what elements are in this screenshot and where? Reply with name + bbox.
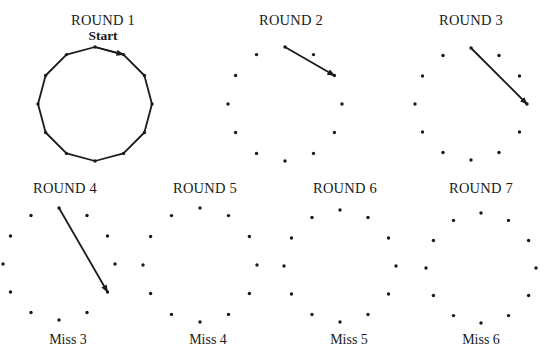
point-dot bbox=[387, 236, 390, 239]
point-dot bbox=[149, 292, 152, 295]
round-5-title: ROUND 5 bbox=[173, 181, 237, 196]
point-dot bbox=[312, 152, 315, 155]
point-dot bbox=[441, 54, 444, 57]
point-dot bbox=[106, 234, 109, 237]
point-dot bbox=[36, 102, 39, 105]
point-dot bbox=[479, 211, 482, 214]
point-dot bbox=[283, 159, 286, 162]
point-dot bbox=[527, 239, 530, 242]
point-dot bbox=[198, 320, 201, 323]
point-dot bbox=[255, 152, 258, 155]
point-dot bbox=[248, 235, 251, 238]
point-dot bbox=[290, 292, 293, 295]
point-dot bbox=[338, 320, 341, 323]
round-7-diagram bbox=[424, 211, 537, 324]
point-dot bbox=[421, 74, 424, 77]
round-6-diagram bbox=[282, 208, 397, 323]
point-dot bbox=[150, 102, 153, 105]
point-dot bbox=[57, 318, 60, 321]
point-dot bbox=[432, 239, 435, 242]
point-dot bbox=[340, 102, 343, 105]
round-2-diagram bbox=[226, 45, 343, 162]
point-dot bbox=[282, 264, 285, 267]
round-7-miss-caption: Miss 6 bbox=[462, 333, 500, 347]
point-dot bbox=[113, 262, 116, 265]
point-dot bbox=[29, 214, 32, 217]
point-dot bbox=[432, 294, 435, 297]
point-dot bbox=[424, 266, 427, 269]
point-dot bbox=[122, 152, 125, 155]
round-6-title: ROUND 6 bbox=[313, 181, 377, 196]
point-dot bbox=[394, 264, 397, 267]
round-4-miss-caption: Miss 3 bbox=[49, 333, 87, 347]
point-dot bbox=[234, 131, 237, 134]
point-dot bbox=[333, 131, 336, 134]
point-dot bbox=[85, 214, 88, 217]
point-dot bbox=[527, 294, 530, 297]
point-dot bbox=[452, 314, 455, 317]
point-dot bbox=[452, 219, 455, 222]
point-dot bbox=[170, 313, 173, 316]
skip-arrow bbox=[59, 208, 108, 292]
point-dot bbox=[518, 130, 521, 133]
round-4-title: ROUND 4 bbox=[33, 181, 97, 196]
round-1-title: ROUND 1 bbox=[71, 13, 135, 28]
point-dot bbox=[518, 74, 521, 77]
round-6-miss-caption: Miss 5 bbox=[330, 333, 368, 347]
point-dot bbox=[366, 216, 369, 219]
point-dot bbox=[1, 262, 4, 265]
skip-arrow bbox=[285, 47, 334, 76]
round-5-miss-caption: Miss 4 bbox=[189, 333, 227, 347]
point-dot bbox=[497, 151, 500, 154]
point-dot bbox=[141, 263, 144, 266]
round-4-diagram bbox=[1, 206, 116, 321]
point-dot bbox=[338, 208, 341, 211]
point-dot bbox=[44, 131, 47, 134]
point-dot bbox=[227, 214, 230, 217]
point-dot bbox=[507, 314, 510, 317]
round-3-title: ROUND 3 bbox=[439, 13, 503, 28]
round-1-diagram bbox=[36, 45, 153, 162]
point-dot bbox=[479, 321, 482, 324]
point-dot bbox=[441, 151, 444, 154]
point-dot bbox=[507, 219, 510, 222]
point-dot bbox=[9, 234, 12, 237]
point-dot bbox=[310, 313, 313, 316]
point-dot bbox=[255, 263, 258, 266]
point-dot bbox=[290, 236, 293, 239]
point-dot bbox=[143, 74, 146, 77]
point-dot bbox=[421, 130, 424, 133]
point-dot bbox=[170, 214, 173, 217]
point-dot bbox=[9, 290, 12, 293]
point-dot bbox=[29, 311, 32, 314]
point-dot bbox=[469, 158, 472, 161]
point-dot bbox=[226, 102, 229, 105]
point-dot bbox=[44, 74, 47, 77]
point-dot bbox=[65, 53, 68, 56]
point-dot bbox=[497, 54, 500, 57]
point-dot bbox=[85, 311, 88, 314]
round-2-title: ROUND 2 bbox=[259, 13, 323, 28]
twelve-gon-path bbox=[38, 47, 152, 161]
point-dot bbox=[366, 313, 369, 316]
point-dot bbox=[65, 152, 68, 155]
round-7-title: ROUND 7 bbox=[449, 181, 513, 196]
point-dot bbox=[413, 102, 416, 105]
point-dot bbox=[248, 292, 251, 295]
point-dot bbox=[149, 235, 152, 238]
point-dot bbox=[255, 53, 258, 56]
point-dot bbox=[387, 292, 390, 295]
round-5-diagram bbox=[141, 206, 258, 323]
point-dot bbox=[93, 159, 96, 162]
point-dot bbox=[198, 206, 201, 209]
point-dot bbox=[234, 74, 237, 77]
point-dot bbox=[534, 266, 537, 269]
point-dot bbox=[310, 216, 313, 219]
skip-arrow bbox=[95, 47, 124, 55]
skip-game-figure: ROUND 1 Start ROUND 2 ROUND 3 ROUND 4 Mi… bbox=[0, 0, 547, 361]
round-1-start-label: Start bbox=[88, 29, 117, 43]
point-dot bbox=[227, 313, 230, 316]
point-dot bbox=[143, 131, 146, 134]
point-dot bbox=[312, 53, 315, 56]
round-3-diagram bbox=[413, 46, 528, 161]
